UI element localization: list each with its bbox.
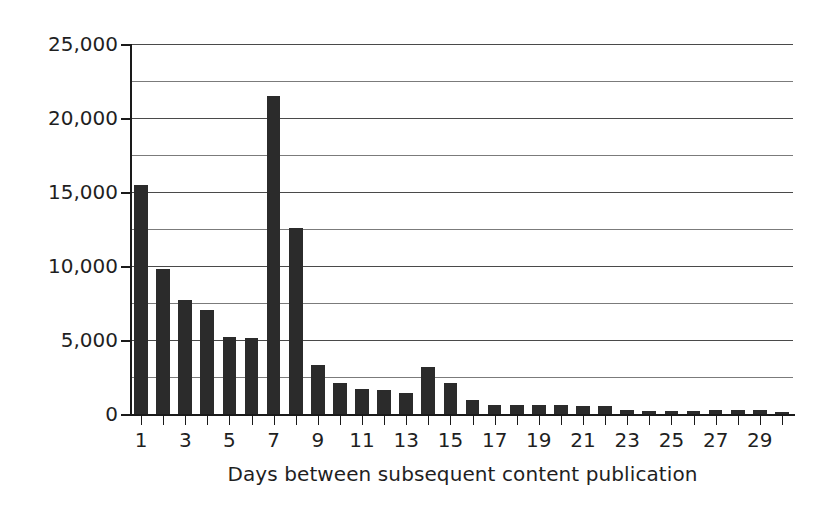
x-axis-tick-label: 7 bbox=[267, 428, 280, 452]
x-axis-tick-mark bbox=[517, 416, 518, 425]
x-axis-tick-mark bbox=[671, 416, 672, 425]
bar bbox=[355, 389, 369, 414]
bar bbox=[421, 367, 435, 414]
bar bbox=[156, 269, 170, 414]
x-axis-tick-mark bbox=[362, 416, 363, 425]
y-axis-tick-mark bbox=[121, 340, 131, 342]
x-axis-tick-mark bbox=[141, 416, 142, 425]
x-axis-tick-label: 13 bbox=[394, 428, 419, 452]
bar bbox=[311, 365, 325, 414]
x-axis-tick-label: 19 bbox=[526, 428, 551, 452]
x-axis-tick-mark bbox=[539, 416, 540, 425]
y-axis-tick-label: 25,000 bbox=[48, 32, 118, 56]
x-axis-tick-mark bbox=[163, 416, 164, 425]
x-axis-tick-label: 23 bbox=[615, 428, 640, 452]
x-axis-tick-mark bbox=[428, 416, 429, 425]
x-axis-tick-mark bbox=[760, 416, 761, 425]
x-axis-tick-mark bbox=[716, 416, 717, 425]
bar bbox=[576, 406, 590, 414]
bar bbox=[377, 390, 391, 414]
x-axis-tick-label: 11 bbox=[349, 428, 374, 452]
x-axis-tick-mark bbox=[495, 416, 496, 425]
x-axis-tick-label: 1 bbox=[135, 428, 148, 452]
x-axis-tick-label: 29 bbox=[747, 428, 772, 452]
x-axis-tick-mark bbox=[185, 416, 186, 425]
bar bbox=[245, 338, 259, 414]
bar-chart: Frequency 05,00010,00015,00020,00025,000… bbox=[0, 0, 819, 526]
x-axis-tick-label: 21 bbox=[570, 428, 595, 452]
x-axis-tick-mark bbox=[406, 416, 407, 425]
y-axis-tick-label: 0 bbox=[105, 402, 118, 426]
x-axis-tick-label: 9 bbox=[311, 428, 324, 452]
x-axis-tick-mark bbox=[694, 416, 695, 425]
x-axis-tick-mark bbox=[561, 416, 562, 425]
x-axis-tick-label: 27 bbox=[703, 428, 728, 452]
y-axis-tick-labels: 05,00010,00015,00020,00025,000 bbox=[40, 30, 128, 428]
y-axis-tick-mark bbox=[121, 44, 131, 46]
y-axis-line bbox=[130, 44, 132, 416]
x-axis-tick-mark bbox=[605, 416, 606, 425]
x-axis-tick-mark bbox=[583, 416, 584, 425]
y-axis-tick-mark bbox=[121, 118, 131, 120]
bar bbox=[510, 405, 524, 414]
bar bbox=[488, 405, 502, 414]
bar bbox=[267, 96, 281, 414]
x-axis-tick-label: 25 bbox=[659, 428, 684, 452]
bar bbox=[178, 300, 192, 414]
bar bbox=[598, 406, 612, 414]
x-axis-title: Days between subsequent content publicat… bbox=[130, 462, 795, 486]
x-axis-tick-mark bbox=[473, 416, 474, 425]
x-axis-tick-label: 5 bbox=[223, 428, 236, 452]
y-axis-tick-label: 20,000 bbox=[48, 106, 118, 130]
x-axis-tick-mark bbox=[738, 416, 739, 425]
bar bbox=[399, 393, 413, 414]
x-axis-tick-mark bbox=[207, 416, 208, 425]
x-axis-tick-mark bbox=[384, 416, 385, 425]
x-axis-tick-mark bbox=[340, 416, 341, 425]
bars-layer bbox=[130, 44, 793, 414]
y-axis-tick-mark bbox=[121, 266, 131, 268]
x-axis-tick-label: 17 bbox=[482, 428, 507, 452]
x-axis-tick-marks bbox=[130, 416, 795, 426]
bar bbox=[223, 337, 237, 414]
y-axis-tick-label: 15,000 bbox=[48, 180, 118, 204]
bar bbox=[466, 400, 480, 414]
y-axis-tick-label: 10,000 bbox=[48, 254, 118, 278]
bar bbox=[134, 185, 148, 414]
bar bbox=[289, 228, 303, 414]
x-axis-tick-label: 3 bbox=[179, 428, 192, 452]
x-axis-tick-mark bbox=[782, 416, 783, 425]
x-axis-tick-mark bbox=[649, 416, 650, 425]
x-axis-tick-mark bbox=[229, 416, 230, 425]
x-axis-tick-mark bbox=[296, 416, 297, 425]
y-axis-tick-mark bbox=[121, 192, 131, 194]
bar bbox=[200, 310, 214, 414]
x-axis-tick-label: 15 bbox=[438, 428, 463, 452]
x-axis-tick-mark bbox=[627, 416, 628, 425]
x-axis-tick-mark bbox=[450, 416, 451, 425]
bar bbox=[554, 405, 568, 414]
x-axis-tick-mark bbox=[274, 416, 275, 425]
x-axis-tick-mark bbox=[318, 416, 319, 425]
x-axis-tick-labels: 1357911131517192123252729 bbox=[130, 428, 795, 458]
y-axis-tick-label: 5,000 bbox=[61, 328, 118, 352]
bar bbox=[532, 405, 546, 414]
bar bbox=[444, 383, 458, 414]
bar bbox=[333, 383, 347, 414]
x-axis-tick-mark bbox=[252, 416, 253, 425]
